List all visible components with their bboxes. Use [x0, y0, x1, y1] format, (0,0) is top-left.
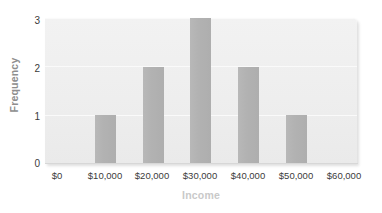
y-tick-label-0: 0 — [20, 159, 40, 169]
x-tick-label-6: $60,000 — [314, 170, 374, 181]
bar-bin-5 — [286, 115, 307, 164]
bar-bin-4 — [238, 67, 259, 164]
plot-area — [45, 18, 357, 164]
bar-bin-1 — [95, 115, 116, 164]
y-tick-label-1: 1 — [20, 112, 40, 122]
y-axis-title: Frequency — [8, 40, 20, 130]
x-axis-title: Income — [45, 189, 357, 201]
bar-bin-2 — [143, 67, 164, 164]
histogram-chart: Frequency 3 2 1 0 $0 $10,000 $20,000 $30… — [0, 0, 382, 213]
x-axis-baseline — [45, 163, 358, 164]
y-tick-label-2: 2 — [20, 64, 40, 74]
y-tick-label-3: 3 — [20, 16, 40, 26]
bar-bin-3 — [190, 18, 211, 164]
